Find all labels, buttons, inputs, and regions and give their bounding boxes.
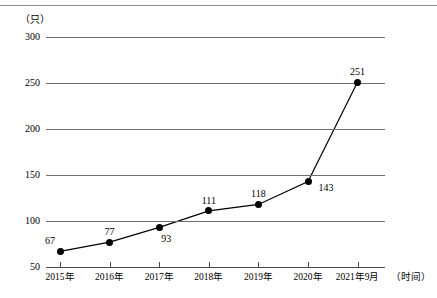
data-point-marker xyxy=(57,248,64,255)
x-tick-mark xyxy=(60,262,61,267)
chart-figure: （只） 501001502002503002015年2016年2017年2018… xyxy=(0,0,437,298)
x-tick-mark xyxy=(110,262,111,267)
x-axis-title: （时间） xyxy=(391,272,431,283)
y-tick-label: 200 xyxy=(0,124,40,134)
data-point-label: 111 xyxy=(202,196,216,206)
data-point-label: 251 xyxy=(350,67,365,77)
gridline xyxy=(46,37,385,38)
y-tick-label: 150 xyxy=(0,170,40,180)
x-axis-line xyxy=(46,267,385,268)
data-point-label: 77 xyxy=(105,227,115,237)
x-tick-mark xyxy=(358,262,359,267)
x-tick-mark xyxy=(159,262,160,267)
x-tick-label: 2015年 xyxy=(46,272,75,283)
data-point-label: 143 xyxy=(319,183,334,193)
data-point-marker xyxy=(106,239,113,246)
x-tick-label: 2016年 xyxy=(95,272,124,283)
series-line xyxy=(0,0,437,298)
x-tick-label: 2019年 xyxy=(244,272,273,283)
y-tick-label: 100 xyxy=(0,216,40,226)
y-tick-label: 50 xyxy=(0,262,40,272)
data-point-marker xyxy=(255,201,262,208)
data-point-label: 118 xyxy=(251,189,266,199)
y-tick-label: 300 xyxy=(0,32,40,42)
x-tick-label: 2020年 xyxy=(294,272,323,283)
data-point-marker xyxy=(354,79,361,86)
gridline xyxy=(46,83,385,84)
gridline xyxy=(46,129,385,130)
x-tick-label: 2017年 xyxy=(145,272,174,283)
gridline xyxy=(46,221,385,222)
data-point-label: 67 xyxy=(45,236,55,246)
x-tick-label: 2018年 xyxy=(194,272,223,283)
x-tick-mark xyxy=(308,262,309,267)
x-tick-label: 2021年9月 xyxy=(336,272,380,283)
data-point-marker xyxy=(156,224,163,231)
data-point-label: 93 xyxy=(161,234,171,244)
gridline xyxy=(46,175,385,176)
data-point-marker xyxy=(305,178,312,185)
y-tick-label: 250 xyxy=(0,78,40,88)
plot-area: 501001502002503002015年2016年2017年2018年201… xyxy=(0,0,437,298)
x-tick-mark xyxy=(258,262,259,267)
x-tick-mark xyxy=(209,262,210,267)
